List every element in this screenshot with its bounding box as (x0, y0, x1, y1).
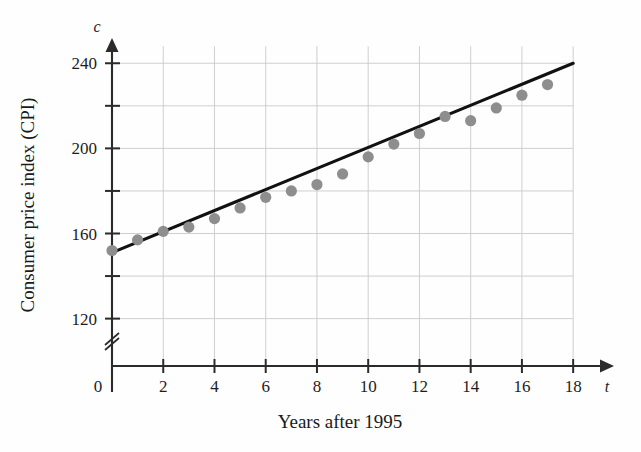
x-tick-label: 18 (565, 377, 582, 396)
data-point (414, 128, 425, 139)
y-axis-tick-labels: 240200160120 (72, 54, 98, 328)
data-point (158, 226, 169, 237)
x-tick-label: 14 (462, 377, 480, 396)
data-point (260, 192, 271, 203)
cpi-scatter-figure: 24681012141618 240200160120 0 t c Years … (0, 0, 641, 452)
data-point (465, 115, 476, 126)
data-point (516, 90, 527, 101)
data-point (209, 213, 220, 224)
x-tick-label: 2 (159, 377, 168, 396)
x-axis-variable-label: t (605, 378, 610, 395)
data-point (491, 102, 502, 113)
x-axis-tick-labels: 24681012141618 (159, 377, 582, 396)
data-point (286, 185, 297, 196)
chart-canvas: 24681012141618 240200160120 0 t c Years … (0, 0, 641, 452)
y-tick-label: 120 (72, 310, 98, 329)
data-point (106, 245, 117, 256)
data-point (132, 234, 143, 245)
x-tick-label: 4 (210, 377, 219, 396)
y-tick-label: 240 (72, 54, 98, 73)
x-axis-title: Years after 1995 (278, 411, 403, 432)
y-axis-title: Consumer price index (CPI) (17, 98, 39, 313)
data-point (439, 111, 450, 122)
y-tick-label: 200 (72, 139, 98, 158)
horizontal-gridlines (112, 63, 573, 318)
data-point (183, 222, 194, 233)
y-tick-label: 160 (72, 225, 98, 244)
x-tick-label: 10 (360, 377, 377, 396)
y-axis-variable-label: c (93, 18, 100, 35)
x-tick-label: 8 (313, 377, 322, 396)
origin-tick-label: 0 (94, 377, 103, 396)
data-point (363, 151, 374, 162)
x-tick-label: 12 (411, 377, 428, 396)
y-axis-arrowhead (106, 38, 119, 52)
data-point (388, 139, 399, 150)
x-tick-label: 6 (261, 377, 270, 396)
x-axis-arrowhead (600, 360, 614, 373)
data-point (337, 168, 348, 179)
x-tick-label: 16 (513, 377, 530, 396)
data-point (235, 202, 246, 213)
line-of-best-fit (112, 63, 573, 252)
data-point (311, 179, 322, 190)
data-point (542, 79, 553, 90)
vertical-gridlines (163, 46, 573, 360)
